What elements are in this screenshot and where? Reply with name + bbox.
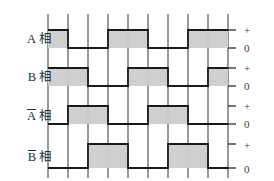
b-bar-phase-zero-level-label: 0 <box>244 164 250 175</box>
waveform-figure: A相B相A相B相 +0+0+0+0 <box>0 0 274 181</box>
a-phase-high-fill-4 <box>188 30 228 48</box>
a-bar-phase-high-fill-1 <box>68 106 108 124</box>
a-phase-label-symbol: A <box>27 32 36 46</box>
a-bar-phase-high-fill-3 <box>148 106 188 124</box>
waveform-fills <box>48 30 228 168</box>
b-phase-high-fill-0 <box>48 68 88 86</box>
b-phase-high-fill-4 <box>208 68 228 86</box>
b-bar-phase-label: B相 <box>8 150 52 164</box>
b-bar-phase-label-suffix: 相 <box>39 150 52 164</box>
a-bar-phase-label: A相 <box>8 109 52 123</box>
a-bar-phase-label-symbol: A <box>27 109 36 123</box>
a-phase-plus-level-label: + <box>244 25 250 36</box>
a-bar-phase-label-suffix: 相 <box>39 109 52 123</box>
b-bar-phase-high-fill-3 <box>168 144 208 168</box>
a-bar-phase-zero-level-label: 0 <box>244 119 250 130</box>
a-phase-zero-level-label: 0 <box>244 43 250 54</box>
b-phase-high-fill-2 <box>128 68 168 86</box>
a-phase-label-suffix: 相 <box>39 32 52 46</box>
b-phase-zero-level-label: 0 <box>244 81 250 92</box>
a-phase-label: A相 <box>8 33 52 46</box>
b-phase-label-symbol: B <box>28 70 36 84</box>
b-phase-label: B相 <box>8 71 52 84</box>
b-phase-plus-level-label: + <box>244 63 250 74</box>
a-phase-high-fill-2 <box>108 30 148 48</box>
b-bar-phase-label-symbol: B <box>28 150 36 164</box>
b-bar-phase-high-fill-1 <box>88 144 128 168</box>
b-bar-phase-plus-level-label: + <box>244 140 250 151</box>
a-bar-phase-plus-level-label: + <box>244 101 250 112</box>
b-phase-label-suffix: 相 <box>39 70 52 84</box>
level-tick-marks <box>228 30 236 168</box>
